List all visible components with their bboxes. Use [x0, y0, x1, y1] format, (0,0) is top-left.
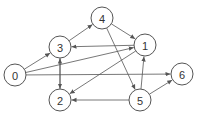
directed-graph: 0 1 2 3 4 5 6 [0, 0, 197, 119]
node-1[interactable]: 1 [134, 34, 156, 56]
edge-1-to-2 [70, 51, 136, 94]
node-label: 3 [57, 42, 63, 54]
node-label: 4 [99, 13, 105, 25]
edge-5-to-1 [141, 56, 144, 89]
edge-4-to-5 [107, 28, 136, 90]
edge-4-to-1 [111, 24, 135, 39]
node-label: 1 [142, 40, 148, 52]
node-6[interactable]: 6 [171, 63, 193, 85]
node-label: 0 [12, 70, 18, 82]
node-label: 2 [57, 95, 63, 107]
node-5[interactable]: 5 [129, 89, 151, 111]
edge-3-to-4 [69, 25, 92, 41]
node-3[interactable]: 3 [49, 36, 71, 58]
node-0[interactable]: 0 [4, 64, 26, 86]
node-label: 6 [179, 69, 185, 81]
nodes-layer: 0 1 2 3 4 5 6 [4, 7, 193, 111]
node-label: 5 [137, 95, 143, 107]
node-2[interactable]: 2 [49, 89, 71, 111]
node-4[interactable]: 4 [91, 7, 113, 29]
edge-1-to-3 [71, 45, 134, 46]
edge-0-to-3 [24, 53, 50, 69]
edge-5-to-6 [149, 80, 172, 94]
